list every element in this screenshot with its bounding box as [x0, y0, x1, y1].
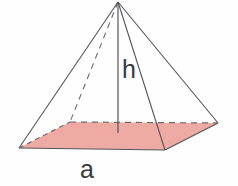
base-edge-label: a — [80, 155, 94, 183]
height-label: h — [122, 55, 136, 83]
pyramid-drawing: h a — [0, 0, 238, 186]
pyramid-figure: h a — [0, 0, 238, 186]
